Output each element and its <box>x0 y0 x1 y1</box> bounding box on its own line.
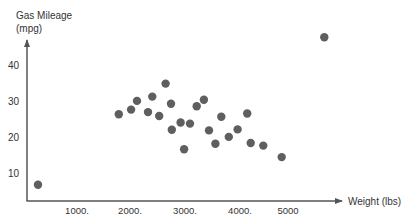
data-point <box>168 126 176 134</box>
y-axis-title: Gas Mileage (mpg) <box>16 9 72 35</box>
x-tick-label-5000: 5000 <box>277 205 298 216</box>
y-tick-label-20: 20 <box>8 132 19 143</box>
data-point <box>180 145 188 153</box>
x-tick-label-3000: 3000. <box>173 205 197 216</box>
data-point <box>115 110 123 118</box>
y-tick-label-40: 40 <box>8 60 19 71</box>
data-point <box>127 105 135 113</box>
y-axis-title-line1: Gas Mileage <box>16 9 72 22</box>
data-point <box>148 92 156 100</box>
data-point <box>161 79 169 87</box>
y-tick-label-10: 10 <box>8 168 19 179</box>
data-point <box>200 96 208 104</box>
data-point <box>259 141 267 149</box>
data-point <box>176 118 184 126</box>
x-axis-title: Weight (lbs) <box>348 196 401 207</box>
y-axis-title-line2: (mpg) <box>16 22 72 35</box>
data-point <box>243 109 251 117</box>
data-point <box>278 153 286 161</box>
data-point <box>211 140 219 148</box>
data-point <box>205 126 213 134</box>
data-point <box>144 108 152 116</box>
data-point <box>193 102 201 110</box>
x-tick-label-2000: 2000. <box>118 205 142 216</box>
data-point <box>133 97 141 105</box>
data-point <box>34 181 42 189</box>
data-point <box>247 139 255 147</box>
data-point <box>167 100 175 108</box>
data-point <box>155 112 163 120</box>
y-tick-label-30: 30 <box>8 96 19 107</box>
x-tick-label-1000: 1000. <box>65 205 89 216</box>
scatter-chart: Gas Mileage (mpg) 40 30 20 10 1000. 2000… <box>0 0 406 224</box>
data-point <box>217 113 225 121</box>
data-point <box>225 133 233 141</box>
data-point <box>233 125 241 133</box>
data-points <box>34 33 329 189</box>
data-point <box>320 33 328 41</box>
x-tick-label-4000: 4000. <box>228 205 252 216</box>
data-point <box>186 119 194 127</box>
